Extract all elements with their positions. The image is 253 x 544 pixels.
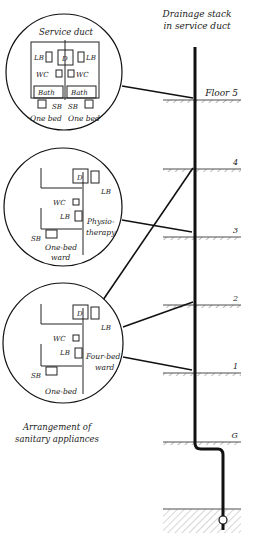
svg-text:Service duct: Service duct bbox=[39, 27, 94, 37]
svg-text:SB: SB bbox=[68, 103, 78, 111]
caption-2: sanitary appliances bbox=[15, 434, 99, 444]
drainage-stack bbox=[195, 47, 223, 530]
svg-text:LB: LB bbox=[85, 54, 96, 62]
svg-text:WC: WC bbox=[53, 335, 66, 343]
svg-text:SB: SB bbox=[31, 372, 41, 380]
floor-g bbox=[163, 442, 241, 445]
svg-text:One-bed: One-bed bbox=[45, 387, 77, 396]
svg-text:LB: LB bbox=[59, 349, 70, 357]
svg-text:D: D bbox=[76, 310, 83, 318]
floor-2 bbox=[163, 305, 241, 308]
svg-text:LB: LB bbox=[100, 324, 111, 332]
svg-text:WC: WC bbox=[36, 71, 49, 79]
svg-text:WC: WC bbox=[53, 199, 66, 207]
drain-outlet-icon bbox=[219, 516, 227, 524]
floor-lines bbox=[163, 100, 241, 533]
svg-text:Bath: Bath bbox=[37, 89, 55, 97]
svg-text:D: D bbox=[76, 174, 83, 182]
floor-3 bbox=[163, 237, 241, 240]
detail-top: Service duct LB D LB WC WC Bath Bath SB … bbox=[6, 14, 122, 130]
floor-label-1: 1 bbox=[233, 362, 238, 371]
svg-text:SB: SB bbox=[52, 103, 62, 111]
svg-text:D: D bbox=[61, 55, 68, 63]
detail-bottom: D LB WC LB SB Four-bed ward One-bed bbox=[3, 283, 123, 403]
svg-text:ward: ward bbox=[51, 253, 70, 262]
stack-title-1: Drainage stack bbox=[162, 9, 232, 19]
floor-1 bbox=[163, 373, 241, 376]
svg-text:LB: LB bbox=[100, 188, 111, 196]
svg-text:therapy: therapy bbox=[86, 228, 116, 237]
caption-1: Arrangement of bbox=[22, 422, 93, 432]
svg-text:LB: LB bbox=[59, 213, 70, 221]
floor-5 bbox=[163, 100, 241, 103]
stack-title-2: in service duct bbox=[163, 21, 231, 31]
svg-text:One-bed: One-bed bbox=[45, 243, 77, 252]
ground bbox=[163, 509, 241, 533]
svg-text:One bed: One bed bbox=[68, 114, 100, 123]
floor-label-g: G bbox=[232, 431, 239, 440]
svg-text:LB: LB bbox=[33, 54, 44, 62]
drainage-diagram: Drainage stack in service duct Floor 5 4… bbox=[0, 0, 253, 544]
svg-text:Four-bed: Four-bed bbox=[85, 352, 120, 361]
svg-text:Physio-: Physio- bbox=[86, 217, 115, 226]
floor-label-2: 2 bbox=[232, 294, 238, 303]
svg-text:SB: SB bbox=[31, 235, 41, 243]
floor-label-5: Floor 5 bbox=[204, 88, 238, 98]
detail-middle: D LB WC LB SB Physio- therapy One-bed wa… bbox=[4, 148, 122, 266]
svg-text:Bath: Bath bbox=[70, 89, 88, 97]
floor-label-3: 3 bbox=[233, 226, 238, 235]
floor-4 bbox=[163, 169, 241, 172]
floor-label-4: 4 bbox=[232, 158, 238, 167]
svg-text:WC: WC bbox=[76, 71, 89, 79]
svg-text:ward: ward bbox=[95, 363, 114, 372]
svg-text:One bed: One bed bbox=[30, 114, 62, 123]
